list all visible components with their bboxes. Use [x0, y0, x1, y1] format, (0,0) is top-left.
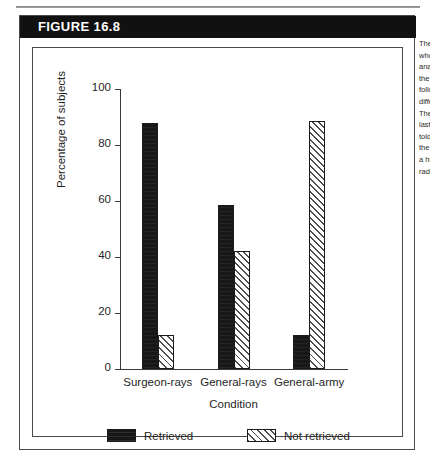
caption-text-column: The percentage of subjectswho retrieved …: [419, 38, 430, 218]
top-divider-rule: [16, 6, 420, 8]
x-axis-tick-label: Surgeon-rays: [123, 376, 192, 388]
chart-legend: RetrievedNot retrieved: [107, 429, 367, 445]
y-axis-tick-label: 20: [98, 305, 111, 317]
caption-line: The subjects in the: [419, 108, 430, 120]
y-axis-tick-label: 0: [105, 361, 111, 373]
caption-line: a hint in solving the: [419, 154, 430, 166]
bar-not-retrieved: [234, 251, 250, 369]
legend-item-not-retrieved: Not retrieved: [247, 429, 350, 442]
y-axis-tick-mark: [115, 145, 120, 146]
y-axis-tick-mark: [115, 201, 120, 202]
legend-label: Retrieved: [144, 430, 193, 442]
legend-item-retrieved: Retrieved: [107, 429, 193, 442]
caption-line: who retrieved the critical: [419, 50, 430, 62]
x-axis-title: Condition: [120, 398, 347, 410]
y-axis-title: Percentage of subjects: [55, 71, 67, 188]
caption-line: last condition were: [419, 119, 430, 131]
y-axis-tick-mark: [115, 369, 120, 370]
y-axis-tick-mark: [115, 313, 120, 314]
caption-line: different cover stories.: [419, 96, 430, 108]
caption-line: The percentage of subjects: [419, 38, 430, 50]
bar-retrieved: [142, 123, 158, 369]
y-axis-tick-mark: [115, 257, 120, 258]
caption-line: followed from the: [419, 84, 430, 96]
caption-line: the conditions, which: [419, 73, 430, 85]
plot-area: 020406080100 Surgeon-raysGeneral-raysGen…: [120, 89, 347, 369]
y-axis-tick-label: 80: [98, 137, 111, 149]
figure-box: FIGURE 16.8 Percentage of subjects 02040…: [19, 15, 415, 450]
chart-panel: Percentage of subjects 020406080100 Surg…: [32, 47, 403, 437]
bar-not-retrieved: [158, 335, 174, 369]
y-axis-tick-label: 100: [92, 81, 111, 93]
bar-chart: Percentage of subjects 020406080100 Surg…: [33, 48, 402, 436]
x-axis-line: [120, 369, 348, 370]
y-axis-tick-mark: [115, 89, 120, 90]
x-axis-tick-label: General-rays: [200, 376, 266, 388]
figure-banner: FIGURE 16.8: [20, 16, 416, 38]
y-axis-line: [120, 89, 121, 370]
bar-retrieved: [293, 335, 309, 369]
bar-not-retrieved: [309, 121, 325, 369]
y-axis-tick-label: 60: [98, 193, 111, 205]
figure-number-label: FIGURE 16.8: [38, 19, 120, 34]
legend-label: Not retrieved: [284, 430, 350, 442]
x-axis-tick-label: General-army: [274, 376, 344, 388]
caption-line: the earlier story as: [419, 142, 430, 154]
legend-swatch: [107, 429, 136, 442]
caption-line: radiation problem.: [419, 166, 430, 178]
bar-retrieved: [218, 205, 234, 369]
legend-swatch: [247, 429, 276, 442]
caption-line: told explicitly to use: [419, 131, 430, 143]
caption-line: analogue in each of: [419, 61, 430, 73]
y-axis-tick-label: 40: [98, 249, 111, 261]
